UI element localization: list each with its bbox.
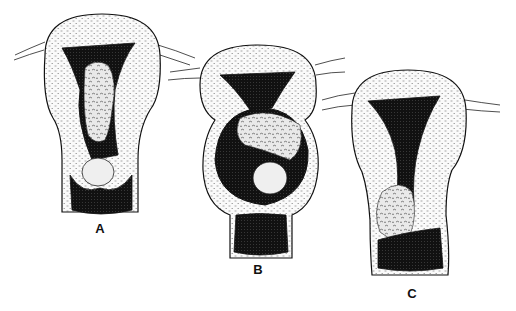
ligament-left-c xyxy=(322,93,355,110)
panel-label-b: B xyxy=(253,262,262,277)
panel-b: B xyxy=(168,45,345,277)
fetal-head-a xyxy=(82,158,114,186)
figure-canvas: A B C xyxy=(0,0,516,311)
panel-a: A xyxy=(14,14,195,236)
mass-c xyxy=(376,185,414,239)
fetal-head-b xyxy=(253,162,287,194)
panel-label-c: C xyxy=(407,286,417,301)
ligament-right-b xyxy=(315,58,345,75)
panel-c: C xyxy=(322,70,500,301)
ligament-left-b xyxy=(168,68,200,80)
cervix-b xyxy=(234,214,288,256)
ligament-left-a xyxy=(14,42,45,60)
ligament-right-a xyxy=(158,45,195,65)
panel-label-a: A xyxy=(95,221,105,236)
